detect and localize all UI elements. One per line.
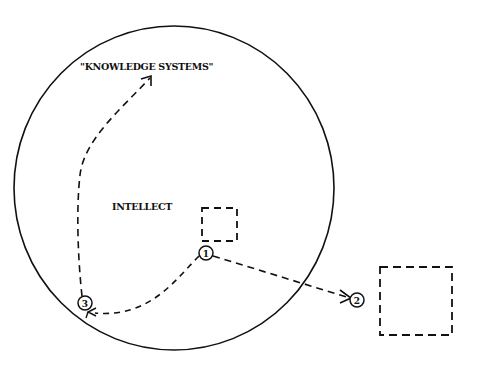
marker-3-label: 3: [82, 299, 88, 309]
outer-dashed-square: [380, 267, 452, 335]
marker-2: 2: [350, 293, 364, 307]
knowledge-systems-label: "KNOWLEDGE SYSTEMS": [80, 61, 213, 72]
intellect-label: INTELLECT: [112, 201, 172, 212]
path-3-to-knowledge: [78, 78, 150, 296]
marker-1: 1: [199, 246, 213, 260]
intellect-circle: [14, 26, 334, 350]
marker-2-label: 2: [354, 296, 360, 306]
diagram-canvas: "KNOWLEDGE SYSTEMS" INTELLECT 1 2 3: [0, 0, 483, 370]
arrowhead-to-knowledge-icon: [141, 76, 151, 86]
marker-3: 3: [78, 296, 92, 310]
inner-dashed-square: [202, 208, 237, 241]
path-1-to-3: [95, 256, 199, 313]
marker-1-label: 1: [203, 249, 209, 259]
path-1-to-2: [213, 256, 350, 298]
